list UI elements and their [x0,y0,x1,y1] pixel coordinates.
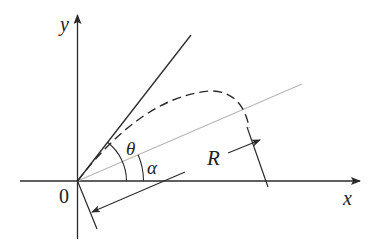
landing-tick [247,127,268,187]
theta-label: θ [126,138,135,159]
alpha-label: α [147,157,158,178]
launch-direction-line [78,35,192,181]
trajectory-curve [78,91,250,181]
range-arrow-left [92,172,185,212]
incline-line [78,84,303,181]
alpha-arc [138,155,143,181]
x-axis-label: x [342,187,352,209]
y-axis-label: y [58,13,69,36]
origin-tick [78,181,98,229]
origin-label: 0 [59,185,69,207]
range-label: R [206,146,220,170]
projectile-diagram: y x 0 θ α R [0,0,370,247]
